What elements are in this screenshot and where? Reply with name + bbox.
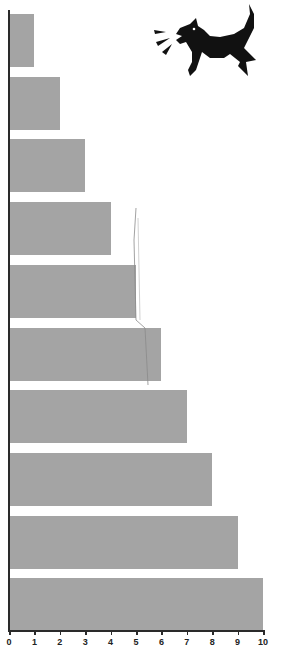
bar-chart: 012345678910 [0,0,281,648]
barking-dog-icon [150,4,260,82]
pencil-mark [0,0,281,648]
